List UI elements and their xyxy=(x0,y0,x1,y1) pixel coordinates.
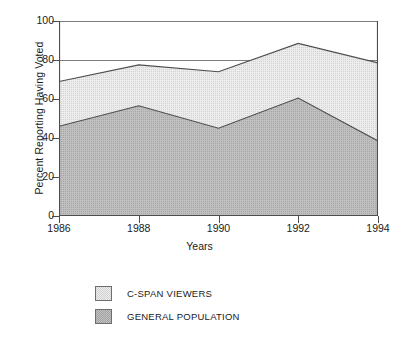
x-axis-title: Years xyxy=(0,240,399,252)
y-tick-label-40: 40 xyxy=(0,132,54,142)
plot-area xyxy=(59,21,378,216)
y-tick-label-20: 20 xyxy=(0,171,54,181)
legend-item[interactable]: GENERAL POPULATION xyxy=(95,306,240,326)
x-tick-label-1990: 1990 xyxy=(189,222,249,234)
y-tick-mark-80 xyxy=(52,60,59,61)
x-tick-label-1986: 1986 xyxy=(29,222,89,234)
y-tick-label-100: 100 xyxy=(0,15,54,25)
x-tick-label-1992: 1992 xyxy=(268,222,328,234)
x-tick-mark-1994 xyxy=(378,216,379,223)
y-tick-label-60: 60 xyxy=(0,93,54,103)
y-tick-mark-20 xyxy=(52,177,59,178)
x-tick-label-1988: 1988 xyxy=(109,222,169,234)
legend-swatch-general-population xyxy=(95,309,112,324)
x-tick-mark-1986 xyxy=(59,216,60,223)
y-tick-mark-60 xyxy=(52,99,59,100)
legend-label: C-SPAN VIEWERS xyxy=(127,288,212,299)
chart-legend: C-SPAN VIEWERSGENERAL POPULATION xyxy=(95,283,240,329)
y-tick-mark-0 xyxy=(52,216,59,217)
legend-item[interactable]: C-SPAN VIEWERS xyxy=(95,283,240,303)
area-chart-figure: Percent Reporting Having Voted 020406080… xyxy=(0,0,399,349)
legend-label: GENERAL POPULATION xyxy=(127,311,240,322)
y-axis-title: Percent Reporting Having Voted xyxy=(33,18,45,218)
legend-swatch-cspan-viewers xyxy=(95,286,112,301)
y-tick-label-0: 0 xyxy=(0,210,54,220)
stacked-area-plot xyxy=(59,21,378,216)
y-tick-mark-100 xyxy=(52,21,59,22)
x-tick-label-1994: 1994 xyxy=(348,222,399,234)
x-tick-mark-1988 xyxy=(139,216,140,223)
y-tick-mark-40 xyxy=(52,138,59,139)
x-tick-mark-1992 xyxy=(298,216,299,223)
y-tick-label-80: 80 xyxy=(0,54,54,64)
x-tick-mark-1990 xyxy=(219,216,220,223)
